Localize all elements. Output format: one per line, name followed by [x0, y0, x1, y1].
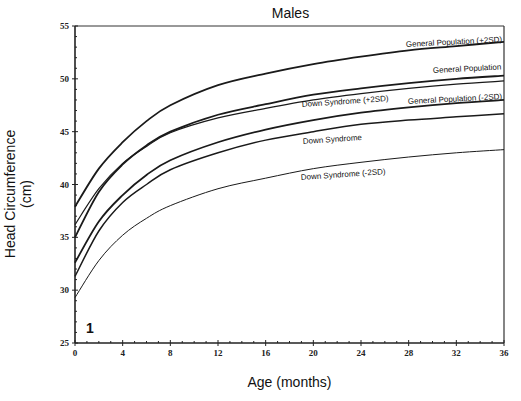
panel-label: 1: [86, 320, 94, 336]
y-tick-label: 40: [60, 180, 70, 190]
curve-gp-minus2sd: [75, 100, 504, 263]
y-tick-label: 45: [60, 127, 70, 137]
y-tick-label: 55: [60, 21, 70, 31]
label-ds-minus2sd: Down Syndrome (-2SD): [301, 167, 387, 182]
x-tick-label: 36: [500, 348, 510, 358]
curve-ds-minus2sd: [75, 150, 504, 298]
x-tick-label: 12: [214, 348, 224, 358]
x-tick-label: 24: [357, 348, 367, 358]
y-tick-label: 35: [60, 232, 70, 242]
label-ds: Down Syndrome: [303, 133, 363, 146]
label-gp: General Population: [433, 62, 502, 75]
y-tick-label: 30: [60, 285, 70, 295]
x-tick-label: 8: [168, 348, 173, 358]
x-tick-label: 0: [73, 348, 78, 358]
x-tick-label: 16: [261, 348, 271, 358]
curve-ds: [75, 114, 504, 277]
y-tick-label: 50: [60, 74, 70, 84]
plot-area: 2530354045505504812162024283236 General …: [0, 0, 521, 401]
y-tick-label: 25: [60, 338, 70, 348]
x-tick-label: 4: [120, 348, 125, 358]
x-tick-label: 28: [404, 348, 414, 358]
label-ds-plus2sd: Down Syndrome (+2SD): [302, 94, 390, 109]
x-tick-label: 32: [452, 348, 462, 358]
curves: [75, 42, 504, 298]
x-tick-label: 20: [309, 348, 319, 358]
